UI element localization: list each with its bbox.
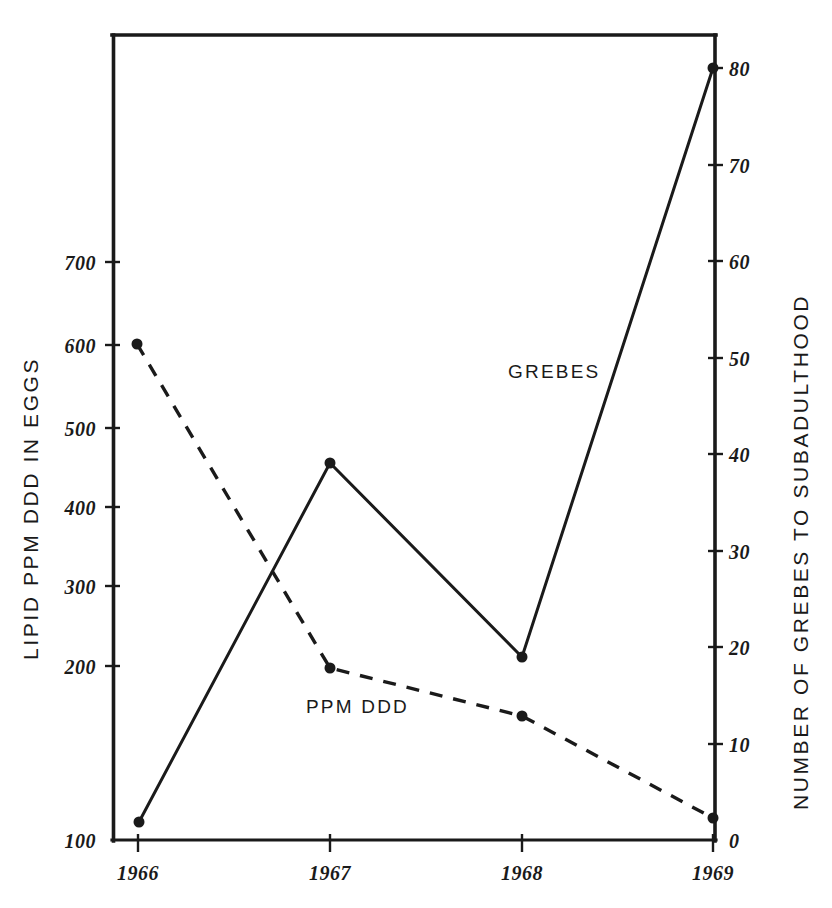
series-grebes-point-1966: [134, 817, 145, 828]
series-ppm-ddd-point-1966: [132, 339, 143, 350]
left-tick-label-500: 500: [65, 418, 97, 440]
left-axis-title: LIPID PPM DDD IN EGGS: [19, 357, 42, 660]
right-tick-label-60: 60: [729, 251, 750, 273]
x-tick-label-1967: 1967: [309, 862, 352, 884]
series-ppm-ddd-point-1968: [517, 711, 528, 722]
left-tick-label-600: 600: [65, 335, 97, 357]
right-tick-label-0: 0: [729, 830, 740, 852]
right-tick-label-30: 30: [728, 541, 750, 563]
left-tick-label-100: 100: [65, 830, 97, 852]
series-ppm-ddd-point-1969: [708, 813, 719, 824]
series-grebes-line: [139, 68, 713, 822]
x-axis-ticks: [138, 834, 713, 852]
right-tick-label-20: 20: [728, 637, 750, 659]
series-grebes-point-1968: [517, 652, 528, 663]
x-tick-label-1969: 1969: [692, 862, 734, 884]
plot-frame: [112, 35, 716, 841]
left-tick-label-400: 400: [64, 497, 97, 519]
right-axis-tick-labels: 80 70 60 50 40 30 20 10 0: [728, 58, 750, 852]
left-tick-label-700: 700: [65, 252, 97, 274]
x-axis-tick-labels: 1966 1967 1968 1969: [117, 862, 734, 884]
series-label-grebes: GREBES: [508, 361, 600, 382]
series-grebes-point-1967: [325, 458, 336, 469]
left-axis-tick-labels: 700 600 500 400 300 200 100: [64, 252, 97, 852]
series-label-ppm-ddd: PPM DDD: [306, 696, 409, 717]
left-tick-label-200: 200: [64, 656, 97, 678]
left-tick-label-300: 300: [64, 576, 97, 598]
right-tick-label-10: 10: [729, 734, 750, 756]
right-tick-label-50: 50: [729, 348, 750, 370]
series-grebes-point-1969: [708, 63, 719, 74]
right-tick-label-40: 40: [728, 444, 750, 466]
right-tick-label-80: 80: [729, 58, 750, 80]
line-chart: 700 600 500 400 300 200 100 80 70 60 50 …: [0, 0, 832, 908]
series-ppm-ddd-point-1967: [325, 663, 336, 674]
series-ppm-ddd: [132, 339, 719, 824]
figure-container: 700 600 500 400 300 200 100 80 70 60 50 …: [0, 0, 832, 908]
series-ppm-ddd-line: [137, 344, 713, 818]
right-tick-label-70: 70: [729, 155, 750, 177]
x-tick-label-1968: 1968: [501, 862, 543, 884]
series-grebes: [134, 63, 719, 828]
right-axis-title: NUMBER OF GREBES TO SUBADULTHOOD: [789, 294, 812, 810]
x-tick-label-1966: 1966: [117, 862, 159, 884]
